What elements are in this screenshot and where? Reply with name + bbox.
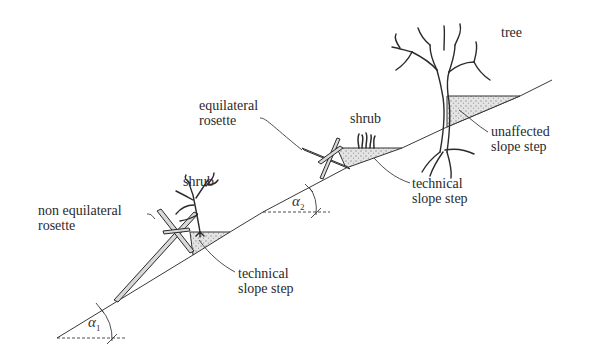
non-equilateral-rosette (114, 209, 198, 302)
alpha1-subscript: 1 (96, 323, 101, 333)
label-non-equilateral-rosette: non equilateral rosette (38, 203, 122, 233)
label-technical-lower-line1: technical (238, 266, 294, 281)
label-non-equilateral-line1: non equilateral (38, 203, 122, 218)
label-technical-lower-line2: slope step (238, 281, 294, 296)
technical-step-upper (337, 148, 402, 168)
alpha2-symbol: α (292, 193, 300, 209)
angle-alpha1-label: α1 (88, 314, 100, 333)
label-technical-step-upper: technical slope step (412, 176, 468, 206)
unaffected-step (447, 96, 520, 127)
label-shrub-upper: shrub (350, 111, 381, 126)
slope-diagram (0, 0, 598, 360)
label-equilateral-line2: rosette (199, 113, 258, 128)
label-unaffected-line2: slope step (491, 139, 550, 154)
angle-alpha2-label: α2 (292, 193, 304, 212)
shrub-upper-icon (358, 133, 375, 148)
label-non-equilateral-line2: rosette (38, 218, 122, 233)
label-unaffected-step: unaffected slope step (491, 124, 550, 154)
label-equilateral-line1: equilateral (199, 98, 258, 113)
label-technical-upper-line2: slope step (412, 191, 468, 206)
label-equilateral-rosette: equilateral rosette (199, 98, 258, 128)
slope-line (57, 80, 552, 338)
label-technical-step-lower: technical slope step (238, 266, 294, 296)
alpha1-symbol: α (88, 314, 96, 330)
label-shrub-lower: shrub (183, 174, 214, 189)
label-unaffected-line1: unaffected (491, 124, 550, 139)
alpha2-subscript: 2 (300, 202, 305, 212)
label-technical-upper-line1: technical (412, 176, 468, 191)
label-tree: tree (501, 25, 522, 40)
